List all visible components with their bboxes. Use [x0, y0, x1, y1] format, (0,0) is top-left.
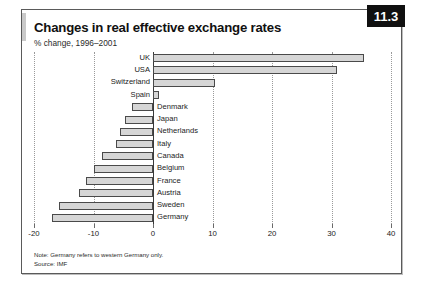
- chart-source: Source: IMF: [34, 260, 67, 267]
- bar-category-label: Spain: [131, 91, 150, 100]
- bar-category-label: UK: [139, 54, 150, 63]
- chart-subtitle: % change, 1996–2001: [34, 38, 117, 48]
- x-tick: [272, 224, 273, 228]
- bar-category-label: Austria: [157, 189, 181, 198]
- bar-category-label: USA: [134, 66, 150, 75]
- bar-category-label: Japan: [157, 115, 178, 124]
- x-tick-label: 10: [208, 229, 217, 238]
- bar-category-label: Denmark: [157, 103, 188, 112]
- bar-category-label: France: [157, 177, 181, 186]
- x-tick-label: -20: [28, 229, 39, 238]
- plot-area: UKUSASwitzerlandSpainDenmarkJapanNetherl…: [34, 52, 391, 224]
- x-tick-label: 30: [327, 229, 336, 238]
- bar-category-label: Belgium: [157, 164, 184, 173]
- x-tick: [153, 224, 154, 228]
- x-tick-label: 0: [151, 229, 155, 238]
- bar-category-label: Netherlands: [157, 127, 198, 136]
- x-tick-label: -10: [88, 229, 99, 238]
- bar-labels: UKUSASwitzerlandSpainDenmarkJapanNetherl…: [34, 52, 391, 224]
- x-tick: [332, 224, 333, 228]
- figure-number-badge: 11.3: [367, 5, 405, 27]
- bar-category-label: Germany: [157, 213, 188, 222]
- gridline: [391, 52, 392, 224]
- x-tick-label: 40: [387, 229, 396, 238]
- bar-category-label: Canada: [157, 152, 184, 161]
- x-tick: [94, 224, 95, 228]
- bar-category-label: Italy: [157, 140, 171, 149]
- x-axis: -20-10010203040: [34, 224, 391, 244]
- chart-title: Changes in real effective exchange rates: [34, 20, 281, 35]
- x-tick: [391, 224, 392, 228]
- bar-category-label: Switzerland: [111, 78, 150, 87]
- x-tick: [213, 224, 214, 228]
- chart-figure: 11.3 Changes in real effective exchange …: [21, 9, 402, 274]
- bar-category-label: Sweden: [157, 201, 184, 210]
- x-tick: [34, 224, 35, 228]
- decorative-spine: [22, 13, 26, 41]
- chart-note: Note: Germany refers to western Germany …: [34, 251, 163, 258]
- x-tick-label: 20: [268, 229, 277, 238]
